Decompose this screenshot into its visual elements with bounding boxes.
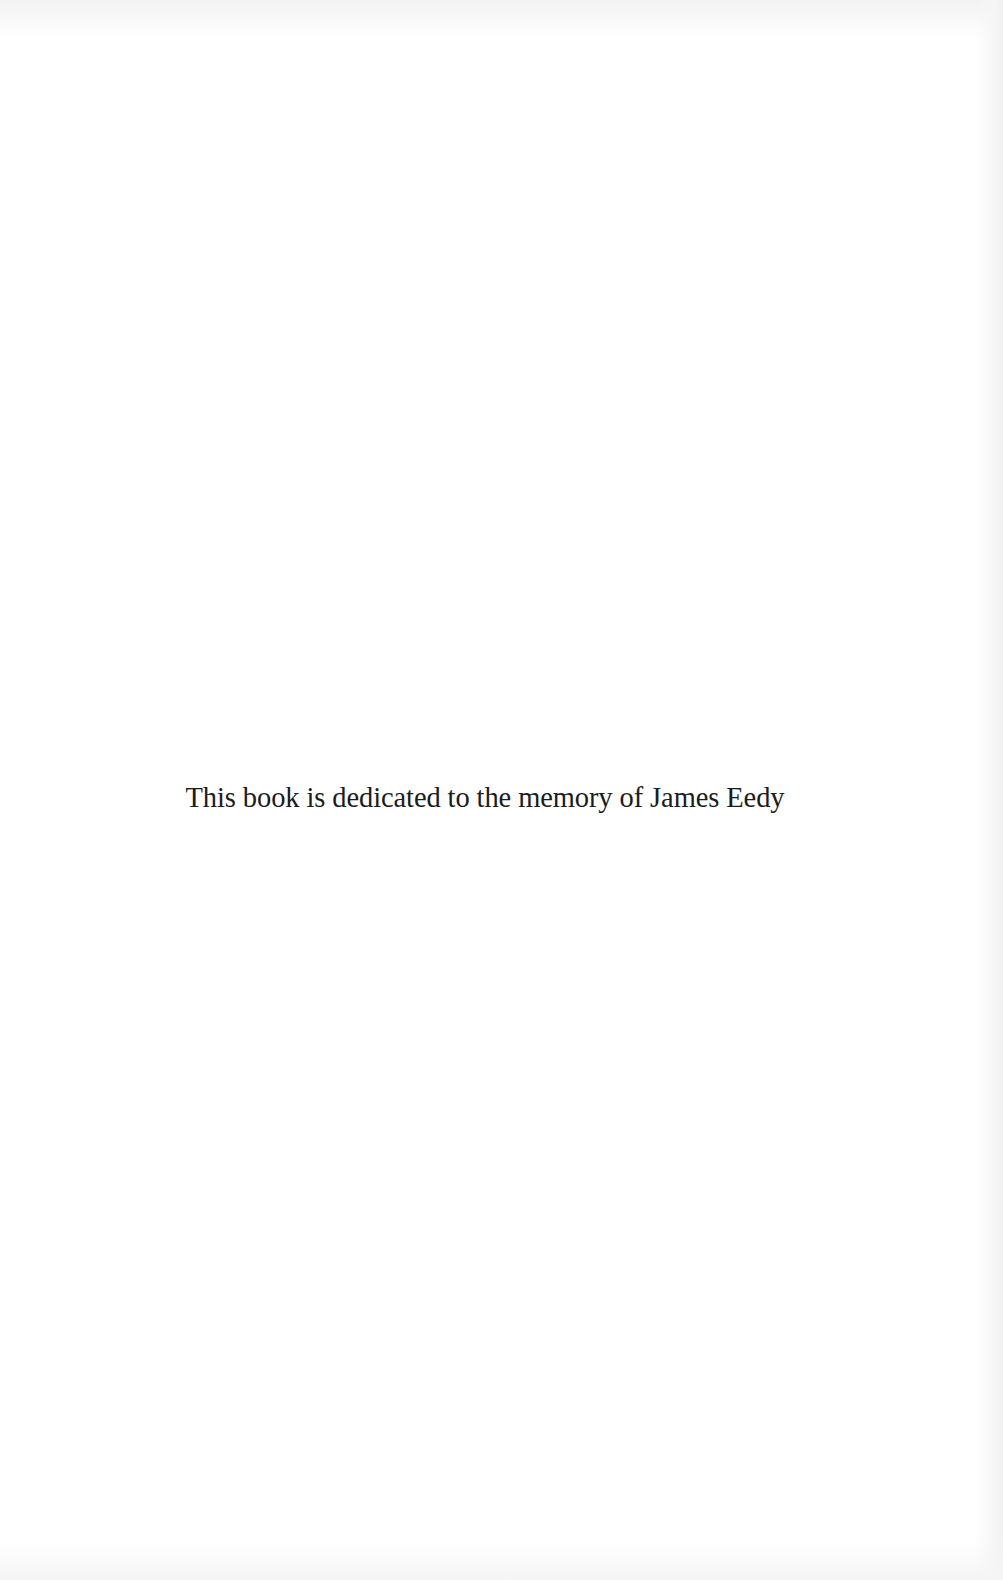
dedication-text: This book is dedicated to the memory of … [0,781,970,815]
book-page: This book is dedicated to the memory of … [0,0,1003,1580]
reverse-page-bleed-through [250,368,710,408]
scan-right-edge-shading [975,0,1003,1580]
scan-bottom-edge-shading [0,1540,1003,1580]
scan-top-edge-shading [0,0,1003,40]
